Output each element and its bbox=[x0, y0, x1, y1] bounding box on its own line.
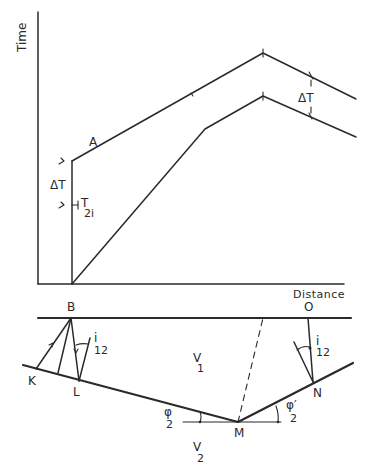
dashed-normal-line bbox=[238, 318, 263, 422]
upper-travel-time-branch bbox=[72, 53, 356, 161]
ray-b-to-k bbox=[36, 318, 71, 369]
dip-arc-right-dot bbox=[277, 421, 280, 424]
subsurface-model: B O K L M N i 12 i 12 V 1 V 2 φ 2 φ′ 2 bbox=[23, 300, 353, 465]
receiver-o-label: O bbox=[304, 300, 313, 314]
delta-t-right-label: ΔT bbox=[298, 91, 314, 105]
dip-angle-right-main: φ′ bbox=[286, 398, 297, 412]
lower-travel-time-branch bbox=[72, 96, 356, 284]
y-axis-label: Time bbox=[15, 23, 29, 53]
point-a-label: A bbox=[89, 135, 98, 149]
critical-angle-arc-left bbox=[76, 344, 88, 345]
layer1-velocity-sub: 1 bbox=[197, 362, 204, 375]
dip-angle-left-sub: 2 bbox=[166, 418, 173, 431]
refraction-diagram: Time Distance ΔT T 2i A ΔT bbox=[0, 0, 372, 472]
delta-t-lower-marker bbox=[59, 202, 64, 208]
shot-point-b-label: B bbox=[67, 300, 75, 314]
ray-point bbox=[309, 347, 312, 350]
delta-t-upper-marker bbox=[59, 158, 64, 164]
critical-angle-arc-right bbox=[297, 346, 310, 350]
dip-arc-left bbox=[200, 412, 201, 422]
critical-angle-right-sub: 12 bbox=[316, 346, 330, 359]
ray-arrow bbox=[74, 349, 78, 353]
dip-angle-right-sub: 2 bbox=[290, 412, 297, 425]
point-n-label: N bbox=[313, 386, 322, 400]
t2i-label-sub: 2i bbox=[84, 207, 94, 220]
layer2-velocity-sub: 2 bbox=[197, 452, 204, 465]
critical-angle-left-main: i bbox=[94, 331, 97, 345]
time-distance-plot: Time Distance ΔT T 2i A ΔT bbox=[15, 12, 356, 301]
critical-angle-left-sub: 12 bbox=[94, 344, 108, 357]
x-axis-label: Distance bbox=[293, 288, 345, 301]
point-m-label: M bbox=[234, 426, 244, 440]
delta-t-left-label: ΔT bbox=[50, 178, 66, 192]
dip-arc-right bbox=[276, 406, 278, 422]
point-k-label: K bbox=[28, 374, 37, 388]
dip-arc-left-dot bbox=[199, 421, 202, 424]
point-l-label: L bbox=[73, 385, 80, 399]
dip-angle-left-main: φ bbox=[164, 405, 172, 419]
